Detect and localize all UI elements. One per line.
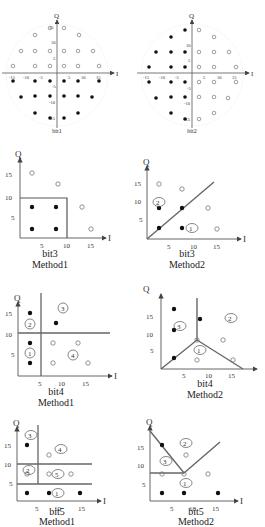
svg-text:5: 5 [188,58,191,63]
svg-text:Q: Q [143,157,150,167]
svg-text:Q: Q [189,12,194,20]
svg-text:I: I [251,70,254,78]
svg-text:10: 10 [5,331,13,339]
caption-bit1: bit1 [47,126,67,136]
svg-text:5: 5 [203,75,206,80]
svg-text:15: 15 [78,505,86,513]
svg-text:-5: -5 [39,75,43,80]
svg-text:5: 5 [170,505,174,513]
svg-text:5: 5 [139,216,143,224]
svg-text:Q: Q [13,418,20,428]
svg-text:Q: Q [143,284,150,294]
svg-text:5: 5 [11,214,15,222]
plot-bit5-method2: I Q 51015 51015 231 [137,417,243,513]
svg-text:15: 15 [5,310,13,318]
svg-text:-15: -15 [143,75,150,80]
plot-bit4-method1: I Q 51015 51015 23 14 [5,293,117,388]
constellation-bit2: I Q -15-10-5 51015 105 -5-10-15 [137,12,254,128]
svg-text:15: 15 [5,171,13,179]
svg-text:-5: -5 [175,75,179,80]
svg-text:3: 3 [28,432,32,440]
method-label-bit4-m1: Method1 [31,398,81,408]
svg-text:5: 5 [68,75,71,80]
svg-text:1: 1 [28,350,32,358]
svg-text:10: 10 [137,462,145,470]
svg-text:1: 1 [55,490,59,498]
method-label-bit4-m2: Method2 [180,390,230,400]
svg-text:2: 2 [228,315,232,323]
svg-text:15: 15 [4,442,12,450]
svg-text:4: 4 [58,446,62,454]
svg-text:10: 10 [5,194,13,202]
svg-text:-10: -10 [159,75,166,80]
svg-text:15: 15 [137,444,145,452]
svg-text:-10: -10 [23,75,30,80]
caption-bit4-m2: bit4 [185,379,225,389]
plot-bit5-method1: I Q 51015 51015 34 251 [4,418,106,513]
method-label-bit5-m2: Method2 [171,517,221,527]
svg-text:15: 15 [87,242,95,250]
constellation-bit1: I Q -15-10-5 51015 15105 -5-10-15 [2,12,119,128]
svg-text:10: 10 [51,40,56,45]
svg-text:5: 5 [11,351,15,359]
svg-text:2: 2 [26,467,30,475]
svg-text:5: 5 [142,481,146,489]
svg-text:2: 2 [156,199,160,207]
svg-text:10: 10 [186,43,191,48]
svg-text:Q: Q [14,293,21,303]
svg-text:4: 4 [71,352,75,360]
svg-text:1: 1 [183,480,187,488]
svg-text:5: 5 [55,471,59,479]
caption-bit3-m1: bit3 [30,249,70,259]
svg-text:I: I [116,70,119,78]
caption-bit3-m2: bit3 [167,249,207,259]
svg-text:15: 15 [213,243,221,251]
svg-text:-10: -10 [49,100,56,105]
svg-text:Q: Q [54,12,59,20]
svg-text:5: 5 [150,347,154,355]
plot-bit4-method2: Q 51015 51015 321 [143,284,257,380]
svg-text:10: 10 [146,331,154,339]
svg-text:I: I [243,234,246,244]
method-label-bit3-m1: Method1 [25,260,75,270]
caption-bit4-m1: bit4 [36,387,76,397]
svg-text:5: 5 [9,480,13,488]
svg-text:15: 15 [82,380,90,388]
caption-bit2: bit2 [182,126,202,136]
svg-text:-15: -15 [9,75,16,80]
svg-text:I: I [108,233,111,243]
svg-text:10: 10 [217,75,222,80]
svg-text:-10: -10 [184,101,191,106]
svg-text:Q: Q [15,149,22,159]
svg-text:15: 15 [146,313,154,321]
svg-text:15: 15 [134,180,142,188]
method-label-bit5-m1: Method1 [32,517,82,527]
plot-bit3-method2: I Q 51015 51015 2 1 [134,157,246,251]
svg-text:3: 3 [177,323,181,331]
svg-text:1: 1 [189,225,193,233]
svg-text:2: 2 [28,321,32,329]
svg-text:1: 1 [197,347,201,355]
svg-text:3: 3 [61,305,65,313]
svg-text:10: 10 [4,461,12,469]
svg-text:5: 5 [53,56,56,61]
svg-text:15: 15 [228,372,236,380]
plot-bit3-method1: I Q 51015 51015 [5,149,111,250]
svg-text:I: I [240,496,243,506]
svg-text:Q: Q [146,417,153,427]
svg-text:-5: -5 [187,86,191,91]
svg-text:3: 3 [163,458,167,466]
svg-text:10: 10 [81,75,86,80]
svg-text:15: 15 [232,75,237,80]
svg-text:I: I [114,371,117,381]
svg-text:-5: -5 [52,84,56,89]
svg-text:I: I [103,496,106,506]
svg-text:2: 2 [183,440,187,448]
method-label-bit3-m2: Method2 [162,260,212,270]
svg-text:10: 10 [134,198,142,206]
